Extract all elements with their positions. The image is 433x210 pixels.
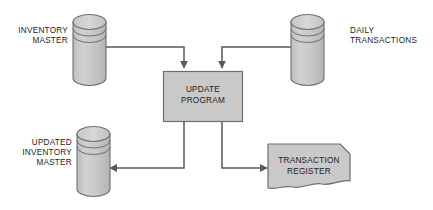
flow-diagram-canvas: INVENTORY MASTER DAILY TRANSACTIONS UPDA… <box>0 0 433 210</box>
connector-update-program-to-updated-inventory-master <box>110 122 184 168</box>
flow-diagram-svg: INVENTORY MASTER DAILY TRANSACTIONS UPDA… <box>0 0 433 210</box>
updated-inventory-master-label-line3: MASTER <box>36 158 72 167</box>
update-program-label-line1: UPDATE <box>186 85 220 94</box>
connector-inventory-master-to-update-program <box>106 47 184 68</box>
update-program-label-line2: PROGRAM <box>181 96 225 105</box>
updated-inventory-master-label-line2: INVENTORY <box>22 148 72 157</box>
updated-inventory-master-label-line1: UPDATED <box>32 138 72 147</box>
transaction-register-label-line1: TRANSACTION <box>278 156 339 165</box>
inventory-master-cylinder-top <box>73 15 106 30</box>
node-updated-inventory-master[interactable]: UPDATED INVENTORY MASTER <box>22 127 110 197</box>
node-inventory-master[interactable]: INVENTORY MASTER <box>18 15 106 86</box>
node-transaction-register[interactable]: TRANSACTION REGISTER <box>268 144 350 188</box>
daily-transactions-label-line1: DAILY <box>350 26 375 35</box>
updated-inventory-master-cylinder-top <box>77 127 110 142</box>
daily-transactions-cylinder-top <box>291 15 324 30</box>
transaction-register-label-line2: REGISTER <box>287 167 331 176</box>
daily-transactions-label-line2: TRANSACTIONS <box>350 36 417 45</box>
inventory-master-label-line2: MASTER <box>32 36 68 45</box>
daily-transactions-cylinder-body <box>291 22 324 86</box>
node-update-program[interactable]: UPDATE PROGRAM <box>164 72 243 122</box>
connector-update-program-to-transaction-register <box>222 122 267 168</box>
inventory-master-label-line1: INVENTORY <box>18 26 68 35</box>
inventory-master-cylinder-body <box>73 22 106 86</box>
node-daily-transactions[interactable]: DAILY TRANSACTIONS <box>291 15 417 86</box>
connector-daily-transactions-to-update-program <box>222 47 291 68</box>
updated-inventory-master-cylinder-body <box>77 134 110 197</box>
